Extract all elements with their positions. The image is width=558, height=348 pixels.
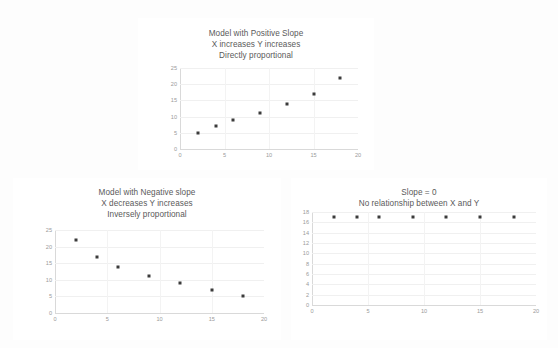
data-point: [95, 255, 98, 258]
x-axis-tick-label: 20: [533, 308, 539, 314]
plot-area-zero-slope: 02468101214161805101520: [312, 212, 536, 306]
y-axis-tick-label: 0: [174, 146, 177, 152]
x-gridline: [160, 230, 161, 313]
x-gridline: [368, 212, 369, 305]
y-axis-tick-label: 4: [306, 281, 309, 287]
x-gridline: [107, 230, 108, 313]
x-gridline: [314, 68, 315, 149]
data-point: [242, 295, 245, 298]
data-point: [378, 216, 381, 219]
y-axis-tick-label: 0: [49, 310, 52, 316]
y-axis-tick-label: 18: [303, 209, 309, 215]
plot-canvas: 02468101214161805101520: [312, 212, 536, 306]
y-axis-tick-label: 10: [171, 114, 177, 120]
x-axis-tick-label: 5: [223, 152, 226, 158]
x-axis-tick-label: 5: [106, 316, 109, 322]
x-axis-tick-label: 10: [421, 308, 427, 314]
chart-title-line1: Slope = 0: [291, 187, 547, 198]
y-axis-tick-label: 5: [49, 293, 52, 299]
data-point: [285, 102, 288, 105]
data-point: [259, 112, 262, 115]
data-point: [74, 238, 77, 241]
y-axis-tick-label: 16: [303, 219, 309, 225]
x-axis-tick-label: 10: [156, 316, 162, 322]
y-axis-tick-label: 20: [171, 81, 177, 87]
data-point: [214, 125, 217, 128]
y-axis-tick-label: 25: [171, 65, 177, 71]
x-axis-tick-label: 15: [209, 316, 215, 322]
data-point: [196, 131, 199, 134]
data-point: [512, 216, 515, 219]
chart-title-line1: Model with Positive Slope: [138, 28, 374, 39]
chart-title-line2: No relationship between X and Y: [291, 198, 547, 209]
data-point: [445, 216, 448, 219]
x-axis-tick-label: 15: [477, 308, 483, 314]
y-axis-tick-label: 15: [46, 260, 52, 266]
y-axis-tick-label: 15: [171, 97, 177, 103]
x-axis-tick-label: 10: [266, 152, 272, 158]
chart-title-line2: X increases Y increases: [138, 39, 374, 50]
y-axis-line: [55, 230, 56, 313]
chart-title-positive-slope: Model with Positive Slope X increases Y …: [138, 18, 374, 62]
chart-panel-positive-slope: Model with Positive Slope X increases Y …: [138, 18, 374, 170]
data-point: [333, 216, 336, 219]
data-point: [179, 282, 182, 285]
y-axis-tick-label: 25: [46, 227, 52, 233]
data-point: [355, 216, 358, 219]
chart-title-negative-slope: Model with Negative slope X decreases Y …: [13, 178, 281, 221]
chart-title-line1: Model with Negative slope: [13, 187, 281, 198]
y-axis-tick-label: 8: [306, 261, 309, 267]
data-point: [339, 76, 342, 79]
chart-panel-negative-slope: Model with Negative slope X decreases Y …: [13, 178, 281, 340]
x-gridline: [424, 212, 425, 305]
y-axis-tick-label: 14: [303, 230, 309, 236]
data-point: [148, 275, 151, 278]
y-axis-tick-label: 0: [306, 302, 309, 308]
y-axis-tick-label: 12: [303, 240, 309, 246]
x-gridline: [212, 230, 213, 313]
x-axis-tick-label: 20: [355, 152, 361, 158]
x-gridline: [225, 68, 226, 149]
y-axis-line: [180, 68, 181, 149]
data-point: [232, 118, 235, 121]
x-gridline: [480, 212, 481, 305]
chart-title-line3: Directly proportional: [138, 50, 374, 61]
x-axis-tick-label: 5: [366, 308, 369, 314]
x-axis-tick-label: 20: [261, 316, 267, 322]
y-axis-tick-label: 10: [46, 277, 52, 283]
x-axis-tick-label: 0: [310, 308, 313, 314]
y-axis-tick-label: 6: [306, 271, 309, 277]
plot-canvas: 051015202505101520: [55, 230, 264, 314]
y-axis-tick-label: 20: [46, 244, 52, 250]
x-gridline: [269, 68, 270, 149]
y-axis-line: [312, 212, 313, 305]
x-axis-tick-label: 0: [178, 152, 181, 158]
chart-panel-zero-slope: Slope = 0 No relationship between X and …: [291, 178, 547, 340]
chart-title-zero-slope: Slope = 0 No relationship between X and …: [291, 178, 547, 209]
plot-canvas: 051015202505101520: [180, 68, 358, 150]
plot-area-negative-slope: 051015202505101520: [55, 230, 264, 314]
x-axis-tick-label: 15: [310, 152, 316, 158]
data-point: [479, 216, 482, 219]
data-point: [116, 265, 119, 268]
data-point: [312, 92, 315, 95]
y-axis-tick-label: 2: [306, 292, 309, 298]
data-point: [411, 216, 414, 219]
x-axis-tick-label: 0: [53, 316, 56, 322]
chart-title-line3: Inversely proportional: [13, 209, 281, 220]
data-point: [210, 288, 213, 291]
y-axis-tick-label: 10: [303, 250, 309, 256]
plot-area-positive-slope: 051015202505101520: [180, 68, 358, 150]
chart-title-line2: X decreases Y increases: [13, 198, 281, 209]
y-axis-tick-label: 5: [174, 130, 177, 136]
